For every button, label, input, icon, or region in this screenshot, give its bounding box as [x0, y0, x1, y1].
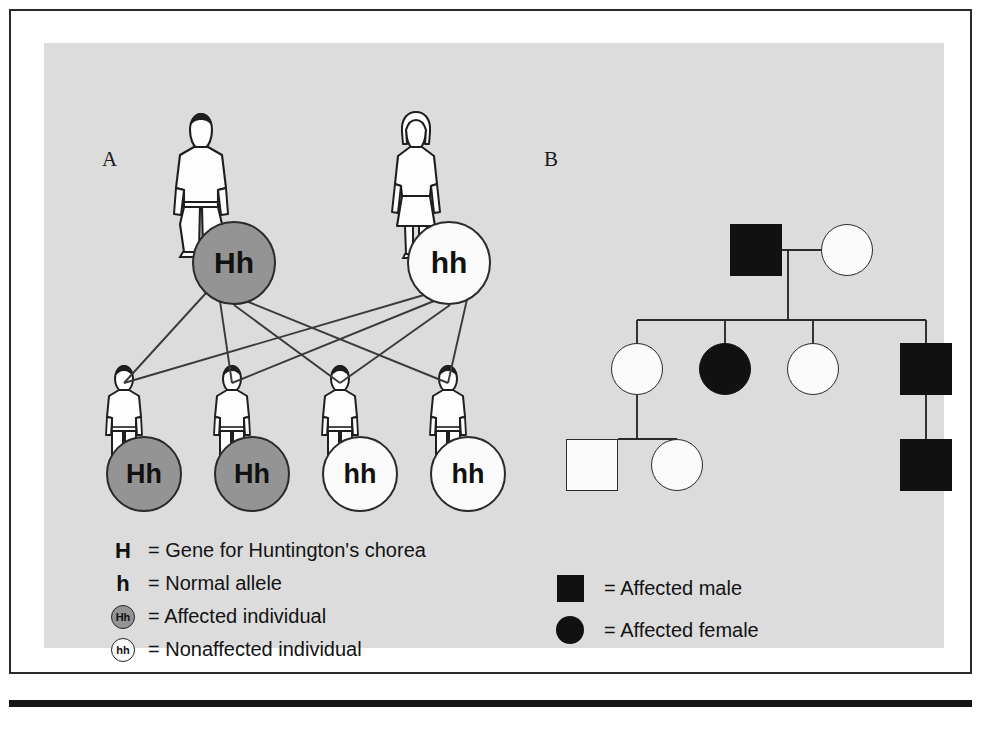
pedigree-gen2-affected-male — [900, 343, 952, 395]
legend-key-affected-male — [544, 575, 596, 602]
pedigree-gen3-unaffected-male — [566, 439, 618, 491]
legend-panel-b: = Affected male = Affected female — [544, 567, 924, 651]
figure-panel: A B Hh hh Hh Hh hh hh H = Gene for Hunti… — [44, 43, 944, 648]
affected-male-square-icon — [557, 575, 584, 602]
pedigree-gen1-affected-male — [730, 224, 782, 276]
legend-key-affected-female — [544, 616, 596, 644]
legend-row-affected-female: = Affected female — [544, 609, 924, 651]
pedigree-gen2-unaffected-female-1 — [611, 343, 663, 395]
legend-row-affected-male: = Affected male — [544, 567, 924, 609]
pedigree-gen2-affected-female — [699, 343, 751, 395]
pedigree-gen3-affected-male — [900, 439, 952, 491]
pedigree-gen2-unaffected-female-2 — [787, 343, 839, 395]
pedigree-gen1-unaffected-female — [821, 224, 873, 276]
legend-text-affected-male: = Affected male — [604, 577, 742, 600]
figure-frame: A B Hh hh Hh Hh hh hh H = Gene for Hunti… — [9, 9, 972, 674]
legend-text-affected-female: = Affected female — [604, 619, 759, 642]
affected-female-circle-icon — [556, 616, 584, 644]
pedigree-gen3-unaffected-female — [651, 439, 703, 491]
bottom-rule — [9, 700, 972, 707]
